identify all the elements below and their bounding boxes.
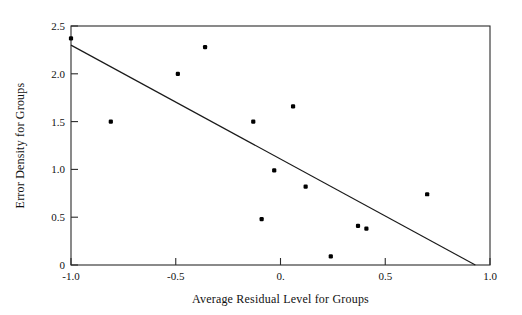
y-tick-label-1.0: 1.0 (51, 163, 65, 175)
data-point (329, 254, 333, 258)
data-point (251, 120, 255, 124)
data-point (203, 45, 207, 49)
x-tick-label--1.0: -1.0 (62, 270, 80, 282)
data-point (364, 227, 368, 231)
data-point (69, 36, 73, 40)
x-tick-label-1.0: 1.0 (483, 270, 497, 282)
plot-area-svg: 2.5 2.0 1.5 1.0 0.5 0 -1.0 -0.5 0. 0.5 1… (0, 0, 522, 315)
data-point (272, 168, 276, 172)
x-tick-label--0.5: -0.5 (167, 270, 185, 282)
data-point (109, 120, 113, 124)
data-point (425, 192, 429, 196)
y-tick-label-2.5: 2.5 (51, 20, 65, 32)
data-point (176, 72, 180, 76)
y-tick-label-1.5: 1.5 (51, 116, 65, 128)
data-point (291, 104, 295, 108)
y-tick-label-2.0: 2.0 (51, 68, 65, 80)
x-tick-label-0.5: 0.5 (378, 270, 392, 282)
x-axis-title: Average Residual Level for Groups (192, 292, 369, 306)
y-axis-title: Error Density for Groups (13, 82, 27, 208)
x-axis-ticks (71, 258, 490, 265)
data-point (356, 224, 360, 228)
x-tick-labels: -1.0 -0.5 0. 0.5 1.0 (62, 270, 497, 282)
plot-frame (71, 26, 490, 265)
data-points-group (69, 36, 429, 258)
y-tick-label-0.5: 0.5 (51, 211, 65, 223)
scatter-chart: 2.5 2.0 1.5 1.0 0.5 0 -1.0 -0.5 0. 0.5 1… (0, 0, 522, 315)
data-point (304, 185, 308, 189)
y-tick-labels: 2.5 2.0 1.5 1.0 0.5 0 (51, 20, 65, 271)
regression-line (71, 45, 475, 265)
x-tick-label-0: 0. (276, 270, 285, 282)
data-point (260, 217, 264, 221)
y-axis-ticks (71, 26, 78, 265)
